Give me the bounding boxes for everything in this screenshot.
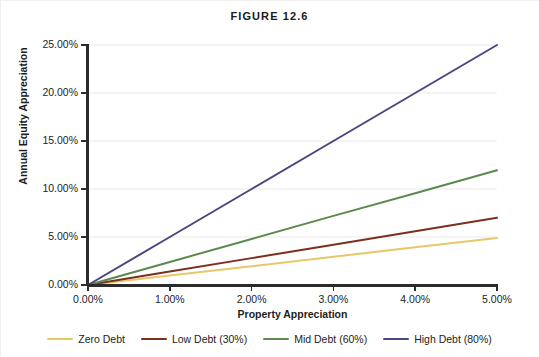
legend-item-2[interactable]: Low Debt (30%) bbox=[141, 333, 247, 345]
legend-item-1[interactable]: Zero Debt bbox=[47, 333, 125, 345]
x-tick-label: 5.00% bbox=[462, 293, 532, 305]
plot-svg bbox=[88, 45, 497, 285]
y-tick-mark bbox=[81, 44, 86, 46]
x-tick-mark bbox=[87, 286, 89, 291]
x-tick-mark bbox=[496, 286, 498, 291]
chart-legend: Zero DebtLow Debt (30%)Mid Debt (60%)Hig… bbox=[0, 333, 539, 345]
y-tick-mark bbox=[81, 140, 86, 142]
legend-item-label: Low Debt (30%) bbox=[172, 333, 247, 345]
x-tick-label: 0.00% bbox=[53, 293, 123, 305]
legend-line-swatch bbox=[47, 338, 73, 341]
x-axis-line bbox=[87, 284, 498, 287]
y-tick-mark bbox=[81, 92, 86, 94]
x-tick-mark bbox=[414, 286, 416, 291]
y-axis-title: Annual Equity Appreciation bbox=[17, 21, 29, 211]
x-tick-mark bbox=[333, 286, 335, 291]
legend-line-swatch bbox=[263, 338, 289, 341]
legend-item-3[interactable]: Mid Debt (60%) bbox=[263, 333, 367, 345]
x-axis-title: Property Appreciation bbox=[88, 308, 497, 320]
y-axis-line bbox=[86, 44, 89, 286]
plot-area bbox=[88, 45, 497, 285]
y-tick-label: 5.00% bbox=[18, 230, 78, 242]
x-tick-mark bbox=[169, 286, 171, 291]
y-tick-mark bbox=[81, 284, 86, 286]
x-tick-label: 4.00% bbox=[380, 293, 450, 305]
figure-chart-page: FIGURE 12.6 0.00%5.00%10.00%15.00%20.00%… bbox=[0, 0, 539, 357]
x-tick-label: 2.00% bbox=[217, 293, 287, 305]
gridlines bbox=[88, 45, 497, 237]
legend-item-4[interactable]: High Debt (80%) bbox=[383, 333, 492, 345]
series-line-1 bbox=[88, 238, 497, 285]
y-tick-mark bbox=[81, 236, 86, 238]
legend-line-swatch bbox=[383, 338, 409, 341]
legend-item-label: High Debt (80%) bbox=[414, 333, 492, 345]
y-tick-label: 0.00% bbox=[18, 278, 78, 290]
x-tick-label: 3.00% bbox=[298, 293, 368, 305]
x-tick-label: 1.00% bbox=[135, 293, 205, 305]
legend-item-label: Mid Debt (60%) bbox=[294, 333, 367, 345]
page-title: FIGURE 12.6 bbox=[0, 10, 539, 22]
series-line-4 bbox=[88, 45, 497, 285]
x-tick-mark bbox=[251, 286, 253, 291]
legend-line-swatch bbox=[141, 338, 167, 341]
y-tick-mark bbox=[81, 188, 86, 190]
legend-item-label: Zero Debt bbox=[78, 333, 125, 345]
series-lines bbox=[88, 45, 497, 285]
